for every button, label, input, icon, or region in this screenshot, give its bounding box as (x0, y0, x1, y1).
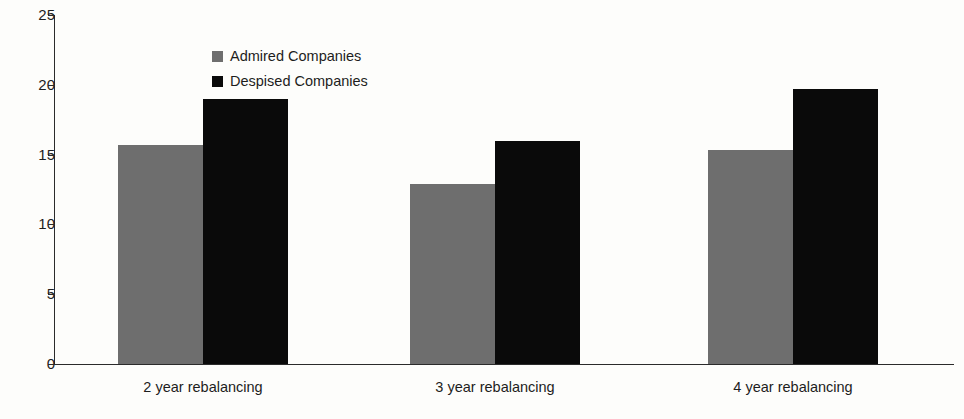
y-tick: 15 (0, 155, 55, 156)
y-tick-mark (48, 364, 55, 365)
legend-label-admired: Admired Companies (230, 49, 361, 64)
bar-admired-group-3 (708, 150, 793, 364)
y-tick-mark (48, 224, 55, 225)
bar-admired-group-1 (118, 145, 203, 364)
x-axis-label-1: 2 year rebalancing (103, 380, 303, 395)
bar-despised-group-1 (203, 99, 288, 364)
y-tick: 5 (0, 294, 55, 295)
y-tick-mark (48, 85, 55, 86)
y-tick-mark (48, 155, 55, 156)
x-axis-label-2: 3 year rebalancing (395, 380, 595, 395)
x-axis-line (54, 364, 954, 365)
legend-swatch-icon-admired (212, 51, 223, 62)
legend-label-despised: Despised Companies (230, 74, 368, 89)
y-tick: 0 (0, 364, 55, 365)
legend-swatch-icon-despised (212, 76, 223, 87)
bar-admired-group-2 (410, 184, 495, 364)
legend: Admired Companies Despised Companies (212, 46, 368, 96)
y-tick-mark (48, 15, 55, 16)
legend-item-admired: Admired Companies (212, 46, 368, 67)
y-tick-mark (48, 294, 55, 295)
bar-despised-group-3 (793, 89, 878, 364)
bar-chart: 2520151050 2 year rebalancing3 year reba… (0, 0, 964, 419)
plot-area: 2520151050 2 year rebalancing3 year reba… (0, 0, 964, 419)
y-axis-line (54, 15, 55, 365)
bar-despised-group-2 (495, 141, 580, 364)
y-tick: 10 (0, 224, 55, 225)
y-tick: 25 (0, 15, 55, 16)
x-axis-label-3: 4 year rebalancing (693, 380, 893, 395)
legend-item-despised: Despised Companies (212, 71, 368, 92)
y-tick: 20 (0, 85, 55, 86)
